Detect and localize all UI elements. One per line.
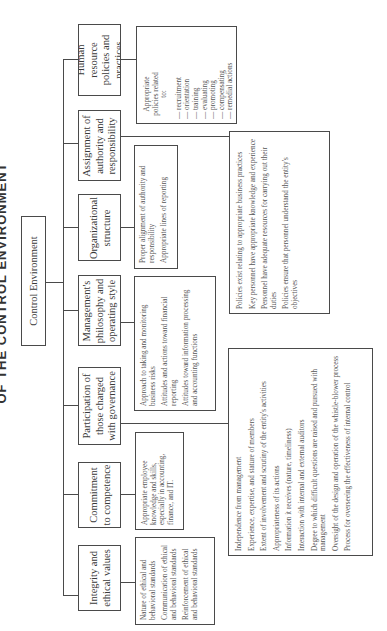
detail-integrity-item: Nature of ethical and behavioral standar… — [140, 542, 157, 620]
root-label: Control Environment — [27, 218, 40, 344]
connector-branch-integrity — [63, 595, 78, 596]
detail-governance-item: Oversight of the design and operation of… — [331, 353, 340, 551]
detail-governance-item: Interaction with internal and external a… — [297, 353, 306, 551]
detail-governance-item: Experience, expertise, and stature of me… — [247, 353, 256, 551]
detail-box-integrity: Nature of ethical and behavioral standar… — [135, 537, 215, 625]
detail-governance-item: Process for overseeing the effectiveness… — [343, 353, 352, 551]
component-box-governance: Participation of those charged with gove… — [78, 367, 121, 445]
detail-governance-item: Extent of involvement and scrutiny of th… — [259, 353, 268, 551]
component-label-integrity: Integrity and ethical values — [87, 547, 112, 609]
component-box-org: Organizational structure — [78, 194, 121, 261]
component-label-org: Organizational structure — [87, 196, 112, 260]
detail-org-item: Proper alignment of authority and respon… — [139, 151, 156, 263]
component-label-governance: Participation of those charged with gove… — [81, 369, 119, 443]
detail-assignment-item: Personnel have adequate resources for ca… — [261, 137, 278, 309]
diagram-header: OF THE CONTROL ENVIRONMENT — [0, 170, 8, 395]
detail-competence-item: Appropriate employee knowledge and skill… — [140, 437, 174, 525]
detail-org-item: Appropriate lines of reporting — [160, 151, 169, 263]
component-box-hr: Human resource policies and practices — [78, 24, 121, 96]
detail-hr-item: orientation — [183, 31, 192, 119]
detail-integrity-item: Reinforcement of ethical and behavioral … — [182, 542, 199, 620]
connector-branch-competence — [63, 494, 78, 495]
detail-box-hr: Appropriate policies related to: recruit… — [136, 26, 237, 124]
component-label-hr: Human resource policies and practices — [78, 26, 121, 94]
detail-assignment-item: Key personnel have appropriate knowledge… — [248, 137, 257, 309]
detail-governance-item: Information it receives (nature, timelin… — [284, 353, 293, 551]
connector-branch-management — [63, 310, 78, 311]
connector-branch-governance — [63, 405, 78, 406]
detail-box-governance: Independence from management Experience,… — [228, 348, 373, 556]
detail-governance-item: Appropriateness of its actions — [272, 353, 281, 551]
connector-detail-management — [120, 322, 134, 323]
connector-detail-assignment — [120, 136, 229, 137]
detail-hr-item: training — [191, 31, 200, 119]
detail-box-competence: Appropriate employee knowledge and skill… — [135, 432, 184, 530]
detail-integrity-item: Communication of ethical and behavioral … — [161, 542, 178, 620]
detail-hr-item: compensating — [217, 31, 226, 119]
detail-box-management: Approach to taking and monitoring busine… — [134, 276, 216, 411]
detail-management-item: Approach to taking and monitoring busine… — [140, 282, 157, 406]
connector-detail-hr — [120, 59, 136, 60]
header-title: OF THE CONTROL ENVIRONMENT — [0, 162, 9, 403]
detail-hr-item: promoting — [209, 31, 218, 119]
detail-management-item: Attitudes toward information processing … — [182, 282, 199, 406]
component-label-assignment: Assignment of authority and responsibili… — [81, 112, 119, 180]
connector-branch-assignment — [63, 143, 78, 144]
component-label-management: Management's philosophy and operating st… — [81, 277, 119, 345]
detail-assignment-item: Policies exist relating to appropriate b… — [236, 137, 245, 309]
component-label-competence: Commitment to competence — [87, 464, 112, 526]
detail-hr-item: evaluating — [200, 31, 209, 119]
detail-hr-item: remedial actions — [226, 31, 235, 119]
connector-root — [45, 282, 64, 283]
detail-hr-intro: Appropriate policies related to: — [143, 69, 169, 119]
detail-assignment-item: Policies ensure that personnel understan… — [282, 137, 299, 309]
detail-box-assignment: Policies exist relating to appropriate b… — [229, 131, 330, 314]
connector-detail-governance — [120, 423, 228, 424]
connector-trunk — [63, 59, 64, 596]
connector-detail-integrity — [120, 582, 135, 583]
detail-management-item: Attitudes and actions toward financial r… — [161, 282, 178, 406]
connector-branch-hr — [63, 59, 78, 60]
detail-hr-item: recruitment — [174, 31, 183, 119]
connector-branch-org — [63, 227, 78, 228]
root-box-control-environment: Control Environment — [21, 216, 46, 346]
connector-detail-org — [120, 227, 134, 228]
detail-governance-item: Independence from management — [234, 353, 243, 551]
detail-governance-item: Degree to which difficult questions are … — [310, 353, 327, 551]
connector-detail-competence — [120, 494, 135, 495]
component-box-assignment: Assignment of authority and responsibili… — [78, 110, 121, 181]
component-box-management: Management's philosophy and operating st… — [78, 275, 121, 346]
detail-box-org: Proper alignment of authority and respon… — [134, 145, 178, 269]
component-box-competence: Commitment to competence — [78, 462, 121, 528]
component-box-integrity: Integrity and ethical values — [78, 545, 121, 611]
